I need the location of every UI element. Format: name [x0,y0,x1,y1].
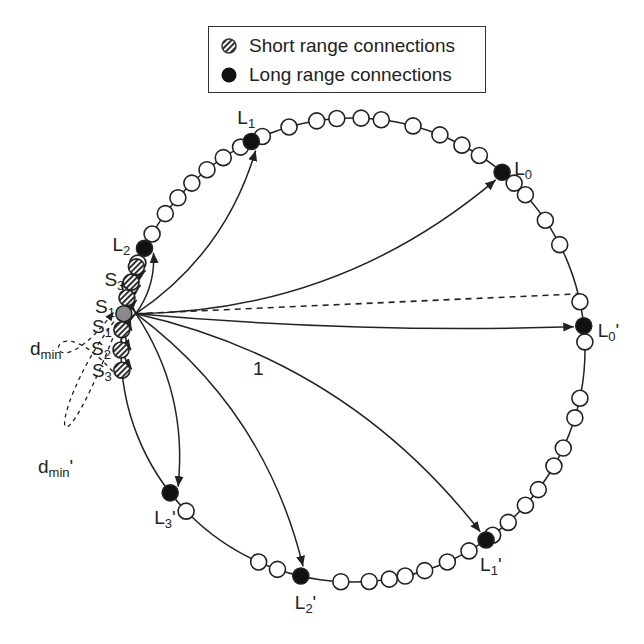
ring-node [178,503,194,519]
label-L2p: L2' [295,592,316,616]
distance-dashed-line [136,294,578,314]
ring-node [530,482,546,498]
ring-diagram: Short range connections Long range conne… [0,0,644,644]
legend-item-short-range: Short range connections [221,32,455,60]
ring-node [397,568,413,584]
dmin-label-lower: dmin' [38,456,73,480]
ring-node [361,573,377,589]
long-range-arc-L1p [136,314,480,532]
ring-node [500,514,516,530]
long-range-node-L0 [494,164,510,180]
short-range-node-S3p [128,259,144,275]
ring-node [454,137,470,153]
ring-node [405,118,421,134]
ring-node [353,110,369,126]
ring-node [144,226,160,242]
legend-label: Long range connections [249,64,452,86]
ring-node [471,147,487,163]
ring-node [567,410,583,426]
legend-item-long-range: Long range connections [221,61,452,89]
label-S3: S3 [92,360,112,384]
ring-node [157,206,173,222]
label-L2: L2 [112,234,130,258]
ring-node [184,175,200,191]
ring-node [417,563,433,579]
ring-node [309,113,325,129]
ring-node [552,237,568,253]
long-range-node-L1 [243,133,259,149]
ring-node [572,390,588,406]
long-range-arc-L3p [136,314,180,487]
ring-node [537,212,553,228]
ring-node [329,111,345,127]
ring-node [381,571,397,587]
long-range-arc-L0p [136,314,574,329]
long-range-node-L0p [576,318,592,334]
short-range-node-S3 [114,362,130,378]
ring-node [281,119,297,135]
label-S2: S2 [91,338,111,362]
ring-node [546,458,562,474]
ring-node [517,187,533,203]
ring-node [461,543,477,559]
connection-arcs [58,150,578,566]
short-range-node-S2p [123,274,139,290]
ring-node [215,150,231,166]
long-range-node-L3p [162,485,178,501]
ring-node [373,112,389,128]
ring-node [333,574,349,590]
long-range-node-L1p [478,532,494,548]
ring-node [577,334,593,350]
short-range-node-S1 [114,322,130,338]
legend-label: Short range connections [249,35,455,57]
ring-node [199,162,215,178]
dmin-label-upper: dmin [30,338,62,362]
ring-node [555,440,571,456]
distance-label: 1 [253,358,264,380]
label-S3p: S3 [104,269,124,293]
ring-node [251,554,267,570]
label-L1: L1 [237,107,255,131]
hatched-circle-icon [221,38,237,54]
legend: Short range connections Long range conne… [208,26,486,93]
label-L1p: L1' [480,554,501,578]
ring-node [572,294,588,310]
long-range-arc-L0 [136,180,496,314]
label-L0: L0 [514,158,532,182]
ring-node [439,554,455,570]
source-node [116,306,132,322]
ring-node [517,497,533,513]
ring-node [269,561,285,577]
label-S1p: S1 [95,296,115,320]
short-range-node-S2 [113,342,129,358]
ring-node [170,190,186,206]
long-range-node-L2p [293,568,309,584]
ring-node [432,127,448,143]
long-range-node-L2 [136,240,152,256]
label-L0p: L0' [598,320,619,344]
filled-circle-icon [221,67,237,83]
label-L3p: L3' [154,507,175,531]
